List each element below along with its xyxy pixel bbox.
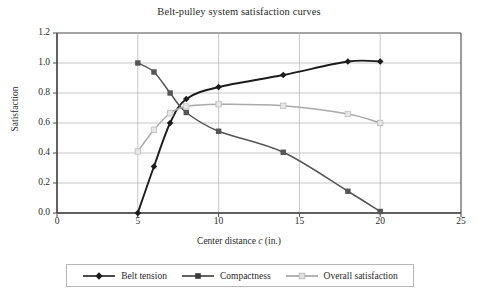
series-line-overall-satisfaction [138, 104, 380, 151]
series-overall-satisfaction [135, 102, 383, 155]
series-line-compactness [138, 63, 380, 212]
chart-figure: Belt-pulley system satisfaction curves S… [0, 0, 478, 298]
legend-item-compactness: Compactness [181, 270, 271, 282]
data-point-compactness [345, 189, 350, 194]
data-point-compactness [151, 69, 156, 74]
legend-label-belt-tension: Belt tension [119, 271, 167, 281]
data-point-compactness [184, 110, 189, 115]
data-point-overall-satisfaction [184, 104, 189, 109]
data-point-overall-satisfaction [167, 111, 172, 116]
series-line-belt-tension [138, 61, 380, 214]
data-point-belt-tension [280, 72, 287, 79]
legend-swatch-belt-tension [82, 270, 116, 282]
data-point-compactness [281, 150, 286, 155]
chart-legend: Belt tension Compactness Overall satisfa… [66, 264, 414, 287]
legend-label-overall-satisfaction: Overall satisfaction [322, 271, 398, 281]
legend-item-belt-tension: Belt tension [82, 270, 167, 282]
series-compactness [135, 60, 383, 214]
legend-swatch-compactness [181, 270, 215, 282]
data-point-overall-satisfaction [216, 102, 221, 107]
data-point-overall-satisfaction [378, 120, 383, 125]
data-point-belt-tension [215, 84, 222, 91]
legend-label-compactness: Compactness [218, 271, 271, 281]
data-point-overall-satisfaction [345, 111, 350, 116]
data-point-compactness [167, 90, 172, 95]
data-point-belt-tension [151, 163, 158, 170]
data-point-belt-tension [135, 210, 142, 217]
data-point-compactness [378, 209, 383, 214]
data-point-overall-satisfaction [135, 149, 140, 154]
data-point-belt-tension [345, 58, 352, 65]
legend-swatch-overall-satisfaction [285, 270, 319, 282]
data-point-overall-satisfaction [281, 103, 286, 108]
data-point-overall-satisfaction [151, 127, 156, 132]
legend-item-overall-satisfaction: Overall satisfaction [285, 270, 398, 282]
plot-canvas [0, 0, 478, 298]
data-point-belt-tension [167, 120, 174, 127]
data-point-compactness [216, 129, 221, 134]
data-point-belt-tension [377, 58, 384, 65]
data-point-compactness [135, 60, 140, 65]
